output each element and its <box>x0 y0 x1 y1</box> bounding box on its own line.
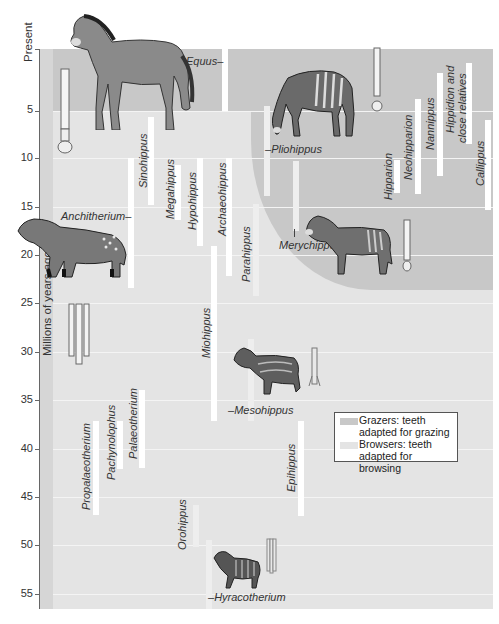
tick-label-35: 35 <box>3 393 33 405</box>
tick-10 <box>35 158 40 159</box>
label-hipparion: Hipparion <box>382 153 394 200</box>
bar-orohippus <box>193 505 199 547</box>
label-nannippus: Nannippus <box>424 97 436 150</box>
pliohippus-foot-bone-illustration <box>370 46 384 114</box>
tick-label-50: 50 <box>3 538 33 550</box>
tick-label-45: 45 <box>3 490 33 502</box>
bar-merychippus <box>293 161 299 231</box>
tick-label-5: 5 <box>3 103 33 115</box>
gridline-25 <box>53 303 493 304</box>
label-sinohippus: Sinohippus <box>137 134 149 188</box>
anchitherium-horse-illustration <box>16 215 128 280</box>
equus-horse-illustration <box>62 12 197 130</box>
label-epihippus: Epihippus <box>285 444 297 492</box>
tick-25 <box>35 303 40 304</box>
grazer-swatch <box>340 418 358 425</box>
label-pliohippus: –Pliohippus <box>265 143 322 155</box>
tick-label-15: 15 <box>3 200 33 212</box>
mesohippus-horse-illustration <box>232 344 302 396</box>
label-neohipparion: Neohipparion <box>402 115 414 180</box>
tick-5 <box>35 111 40 112</box>
tick-45 <box>35 497 40 498</box>
tick-30 <box>35 352 40 353</box>
hyracotherium-horse-illustration <box>212 548 262 590</box>
label-orohippus: Orohippus <box>176 499 188 550</box>
tick-0 <box>35 49 40 50</box>
tick-label-40: 40 <box>3 442 33 454</box>
bar-anchitherium <box>128 158 134 288</box>
gridline-45 <box>53 497 493 498</box>
label-hippidion-1: Hippidion and <box>444 66 456 133</box>
label-megahippus: Megahippus <box>164 159 176 219</box>
gridline-10 <box>53 158 493 159</box>
present-label: Present <box>22 22 34 62</box>
label-hyracotherium: –Hyracotherium <box>208 591 286 603</box>
label-hypohippus: Hypohippus <box>186 172 198 230</box>
bar-neohipparion <box>415 99 421 194</box>
label-propalaeotherium: Propalaeotherium <box>80 423 92 510</box>
bar-propalaeotherium <box>93 421 99 515</box>
bar-palaeotherium <box>139 390 145 468</box>
browser-swatch <box>340 442 358 449</box>
gridline-15 <box>53 207 493 208</box>
bar-parahippus <box>253 204 259 296</box>
bar-hipparion <box>394 160 400 193</box>
label-mesohippus: –Mesohippus <box>228 404 293 416</box>
label-pachynolophus: Pachynolophus <box>105 405 117 480</box>
legend-browsers: Browsers: teeth adapted for browsing <box>359 438 455 474</box>
tick-label-25: 25 <box>3 296 33 308</box>
tick-label-55: 55 <box>3 587 33 599</box>
anchitherium-foot-bone-illustration <box>66 302 92 368</box>
tick-35 <box>35 400 40 401</box>
tick-15 <box>35 207 40 208</box>
label-miohippus: Miohippus <box>200 308 212 358</box>
label-hippidion-2: close relatives <box>456 73 468 143</box>
pliohippus-horse-illustration <box>268 60 358 140</box>
tick-50 <box>35 545 40 546</box>
tick-label-10: 10 <box>3 151 33 163</box>
equus-foot-bone-illustration <box>56 65 74 155</box>
gridline-35 <box>53 400 493 401</box>
legend: Grazers: teeth adapted for grazing Brows… <box>334 412 458 462</box>
merychippus-foot-bone-illustration <box>400 218 414 274</box>
bar-epihippus <box>298 421 304 516</box>
tick-55 <box>35 594 40 595</box>
hyracotherium-foot-bone-illustration <box>264 537 278 575</box>
label-callippus: Callippus <box>474 141 486 186</box>
tick-40 <box>35 449 40 450</box>
tick-label-30: 30 <box>3 345 33 357</box>
merychippus-pointer <box>294 229 295 237</box>
bar-pachynolophus <box>117 421 123 469</box>
label-archaeohippus: Archaeohippus <box>216 163 228 236</box>
label-palaeotherium: Palaeotherium <box>127 388 139 459</box>
legend-grazers: Grazers: teeth adapted for grazing <box>359 414 455 438</box>
label-parahippus: Parahippus <box>240 226 252 282</box>
merychippus-horse-illustration <box>302 208 394 276</box>
bar-nannippus <box>437 73 443 176</box>
mesohippus-foot-bone-illustration <box>307 346 321 390</box>
